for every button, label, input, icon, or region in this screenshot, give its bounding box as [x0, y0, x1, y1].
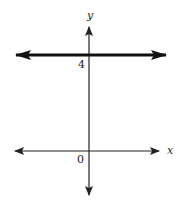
origin-label: 0: [77, 153, 84, 166]
y-tick-label-4: 4: [78, 58, 85, 71]
x-axis-label: x: [167, 144, 174, 157]
graph: y x 4 0: [0, 0, 186, 207]
y-axis-label: y: [86, 9, 94, 22]
